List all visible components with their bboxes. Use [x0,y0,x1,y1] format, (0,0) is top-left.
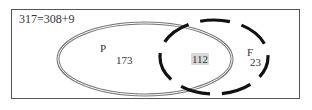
set-p-label: P [100,42,106,54]
set-p-only-count: 173 [116,54,133,66]
equation-label: 317=308+9 [19,13,75,25]
intersection-count: 112 [191,53,209,65]
set-f-only-count: 23 [250,56,261,68]
